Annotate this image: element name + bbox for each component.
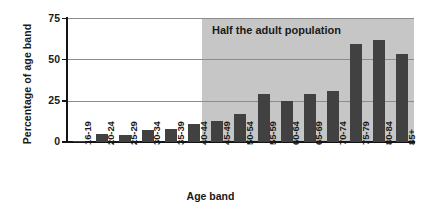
x-tick-label: 16-19: [82, 121, 93, 145]
bar-slot: [391, 18, 414, 142]
y-tick-label-50: 50: [30, 53, 60, 65]
x-tick-label: 65-69: [313, 121, 324, 145]
x-tick-label: 40-44: [198, 121, 209, 145]
y-tick-50: [62, 59, 66, 61]
x-tick-label: 25-29: [128, 121, 139, 145]
x-tick-labels: 16-1920-2425-2930-3435-3940-4445-4950-54…: [67, 145, 414, 190]
x-tick-label: 45-49: [221, 121, 232, 145]
x-tick-label: 75-79: [360, 121, 371, 145]
x-tick-label: 55-59: [267, 121, 278, 145]
y-tick-label-75: 75: [30, 12, 60, 24]
y-tick-label-0: 0: [30, 135, 60, 147]
x-tick-label: 70-74: [337, 121, 348, 145]
y-axis-title: Percentage of age band: [21, 9, 33, 159]
x-tick-label: 80-84: [383, 121, 394, 145]
y-tick-75: [62, 18, 66, 20]
bar-chart: Half the adult population 75 50 25 0 Per…: [0, 0, 421, 214]
x-tick-label: 20-24: [105, 121, 116, 145]
y-tick-label-25: 25: [30, 94, 60, 106]
y-tick-25: [62, 100, 66, 102]
y-tick-0: [62, 141, 66, 143]
x-tick-label: 50-54: [244, 121, 255, 145]
x-tick-label: 35-39: [175, 121, 186, 145]
x-tick-label: 30-34: [151, 121, 162, 145]
x-tick-label: 60-64: [290, 121, 301, 145]
x-axis-title: Age band: [0, 190, 421, 202]
x-tick-label: 85+: [406, 129, 417, 145]
